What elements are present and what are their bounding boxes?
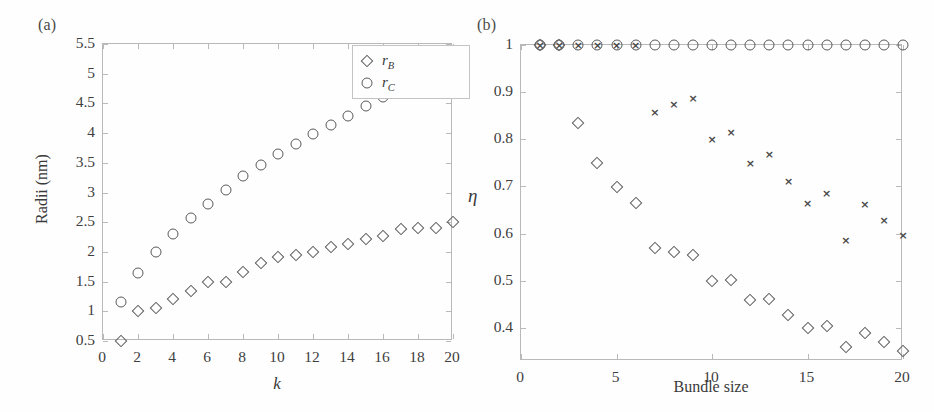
legend-label-rb: rB xyxy=(382,52,394,71)
x-tick-label: 15 xyxy=(799,368,815,386)
panel-a-legend: rB rC xyxy=(352,45,470,99)
panel-a: (a) Radii (nm) k rB rC 0.511.522.533.544… xyxy=(0,0,467,412)
diamond-marker-icon xyxy=(610,181,623,194)
y-tick-label: 2 xyxy=(87,242,95,260)
x-tick-label: 10 xyxy=(269,348,285,366)
diamond-marker-icon xyxy=(725,274,738,287)
circle-marker-icon xyxy=(150,246,161,257)
circle-marker-icon xyxy=(325,119,336,130)
diamond-marker-icon xyxy=(687,249,700,262)
diamond-marker-icon xyxy=(858,326,871,339)
panel-b: (b) ×××××××××××××××××××× η Bundle size 0… xyxy=(467,0,934,412)
diamond-marker-icon xyxy=(572,116,585,129)
diamond-marker-icon xyxy=(820,319,833,332)
circle-marker-icon xyxy=(115,297,126,308)
diamond-marker-icon xyxy=(706,274,719,287)
x-tick-label: 4 xyxy=(168,348,176,366)
y-tick-label: 3.5 xyxy=(76,153,95,171)
y-tick-label: 2.5 xyxy=(76,212,95,230)
circle-marker-icon xyxy=(273,149,284,160)
y-tick-label: 0.4 xyxy=(494,318,513,336)
x-tick-label: 18 xyxy=(409,348,425,366)
circle-marker-icon xyxy=(255,159,266,170)
legend-label-rc: rC xyxy=(382,74,395,93)
x-tick-label: 20 xyxy=(444,348,460,366)
y-tick-label: 0.5 xyxy=(494,271,513,289)
x-tick-label: 20 xyxy=(894,368,910,386)
diamond-marker-icon xyxy=(801,322,814,335)
y-tick-label: 1 xyxy=(87,301,95,319)
circle-marker-icon xyxy=(220,184,231,195)
y-tick-label: 1.5 xyxy=(76,272,95,290)
circle-marker-icon xyxy=(185,213,196,224)
circle-marker-icon xyxy=(168,229,179,240)
panel-a-x-axis-title: k xyxy=(237,374,317,394)
y-tick-label: 5.5 xyxy=(76,34,95,52)
x-tick-label: 16 xyxy=(374,348,390,366)
panel-a-y-axis-title: Radii (nm) xyxy=(33,129,51,249)
circle-marker-icon xyxy=(203,198,214,209)
circle-marker-icon xyxy=(308,128,319,139)
panel-b-plot-area: ×××××××××××××××××××× xyxy=(520,44,902,360)
x-tick-label: 12 xyxy=(304,348,320,366)
y-tick-label: 4 xyxy=(87,123,95,141)
x-tick-label: 0 xyxy=(516,368,524,386)
series-diamonds xyxy=(521,45,901,359)
panel-b-label: (b) xyxy=(477,16,496,34)
circle-marker-icon xyxy=(133,267,144,278)
y-tick-label: 0.6 xyxy=(494,224,513,242)
legend-entry-rc: rC xyxy=(361,72,463,94)
y-tick-label: 5 xyxy=(87,64,95,82)
circle-marker-icon xyxy=(290,139,301,150)
x-tick-label: 8 xyxy=(238,348,246,366)
x-tick-label: 10 xyxy=(703,368,719,386)
panel-a-label: (a) xyxy=(38,16,56,34)
y-tick-label: 4.5 xyxy=(76,93,95,111)
x-tick-label: 0 xyxy=(98,348,106,366)
y-tick-label: 0.9 xyxy=(494,82,513,100)
figure-root: (a) Radii (nm) k rB rC 0.511.522.533.544… xyxy=(0,0,934,412)
x-tick-label: 2 xyxy=(133,348,141,366)
diamond-marker-icon xyxy=(897,344,910,357)
x-tick-label: 14 xyxy=(339,348,355,366)
diamond-marker-icon xyxy=(648,241,661,254)
panel-b-y-axis-title: η xyxy=(468,185,477,207)
circle-marker-icon xyxy=(361,77,373,89)
x-tick-label: 6 xyxy=(203,348,211,366)
diamond-marker-icon xyxy=(591,157,604,170)
circle-marker-icon xyxy=(360,101,371,112)
diamond-marker-icon xyxy=(361,55,373,67)
diamond-marker-icon xyxy=(782,308,795,321)
diamond-marker-icon xyxy=(839,341,852,354)
y-tick-right xyxy=(446,341,451,342)
diamond-marker-icon xyxy=(667,246,680,259)
y-tick xyxy=(103,341,108,342)
diamond-marker-icon xyxy=(763,292,776,305)
circle-marker-icon xyxy=(343,110,354,121)
circle-marker-icon xyxy=(238,170,249,181)
diamond-marker-icon xyxy=(744,294,757,307)
y-tick-label: 0.5 xyxy=(76,331,95,349)
legend-entry-rb: rB xyxy=(361,50,463,72)
y-tick-label: 3 xyxy=(87,183,95,201)
x-tick xyxy=(453,334,454,339)
y-tick-label: 1 xyxy=(505,35,513,53)
y-tick-label: 0.7 xyxy=(494,176,513,194)
diamond-marker-icon xyxy=(878,335,891,348)
x-tick-label: 5 xyxy=(612,368,620,386)
y-tick-label: 0.8 xyxy=(494,129,513,147)
diamond-marker-icon xyxy=(629,197,642,210)
